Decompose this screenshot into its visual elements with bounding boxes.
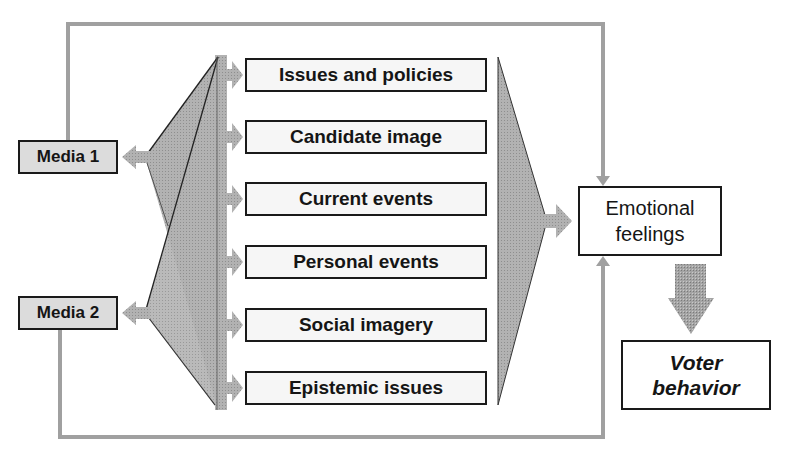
media2-arrow-icon <box>122 301 150 325</box>
voter-behavior-box: Voter behavior <box>621 340 771 410</box>
arrow-right-icon <box>225 374 243 402</box>
voter-behavior-diagram: Media 1 Media 2 Issues and policies Cand… <box>0 0 793 454</box>
arrow-right-icon <box>225 248 243 276</box>
voter-line-1: Voter <box>670 350 723 375</box>
factor-issues-and-policies: Issues and policies <box>245 58 487 92</box>
factor-candidate-image: Candidate image <box>245 120 487 154</box>
arrow-right-icon <box>225 61 243 89</box>
media1-arrow-icon <box>122 145 150 169</box>
factor-epistemic-issues: Epistemic issues <box>245 371 487 405</box>
media-1-box: Media 1 <box>18 140 118 174</box>
arrowhead-down-icon <box>596 176 610 186</box>
arrowhead-up-icon <box>596 256 610 266</box>
emotional-line-2: feelings <box>616 221 685 247</box>
arrow-right-icon <box>225 311 243 339</box>
factor-social-imagery: Social imagery <box>245 308 487 342</box>
emotional-feelings-box: Emotional feelings <box>578 186 722 256</box>
convergence-funnel <box>498 57 572 405</box>
voter-line-2: behavior <box>652 375 740 400</box>
factor-personal-events: Personal events <box>245 245 487 279</box>
media-fan-connector <box>145 55 227 410</box>
emotional-line-1: Emotional <box>606 195 695 221</box>
arrow-right-icon <box>544 204 572 238</box>
down-arrow-icon <box>668 264 714 334</box>
factor-arrows <box>225 61 243 402</box>
arrow-right-icon <box>225 123 243 151</box>
media-2-box: Media 2 <box>18 296 118 330</box>
arrow-right-icon <box>225 185 243 213</box>
factor-current-events: Current events <box>245 182 487 216</box>
